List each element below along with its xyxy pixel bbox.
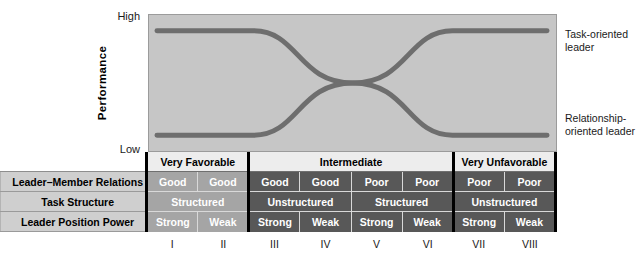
cell-lpp-VIII: Weak [504,212,555,232]
situation-numeral-row: I II III IV V VI VII VIII [1,232,556,254]
table-row-leader-position-power: Leader Position Power Strong Weak Strong… [1,212,556,232]
plot-area [148,14,557,152]
cell-ts-V-VI: Structured [351,192,453,212]
situation-numeral-2: II [198,232,249,254]
row-label-leader-member-relations: Leader–Member Relations [1,172,147,192]
cell-ts-VII-VIII: Unstructured [453,192,555,212]
curve-relationship-oriented-leader [157,31,547,135]
group-header-very-favorable: Very Favorable [147,152,249,172]
performance-chart [148,14,557,152]
cell-lpp-I: Strong [147,212,198,232]
group-header-intermediate: Intermediate [249,152,453,172]
situation-numeral-1: I [147,232,198,254]
cell-lpp-VI: Weak [402,212,453,232]
cell-lmr-IV: Good [300,172,351,192]
cell-lmr-V: Poor [351,172,402,192]
cell-lmr-VII: Poor [453,172,504,192]
group-header-row: Very Favorable Intermediate Very Unfavor… [1,152,556,172]
corner-spacer [1,152,147,172]
situation-numeral-6: VI [402,232,453,254]
situation-numeral-5: V [351,232,402,254]
situation-numeral-8: VIII [504,232,555,254]
cell-lpp-IV: Weak [300,212,351,232]
situation-numeral-3: III [249,232,300,254]
row-label-leader-position-power: Leader Position Power [1,212,147,232]
cell-lpp-III: Strong [249,212,300,232]
row-label-task-structure: Task Structure [1,192,147,212]
cell-lmr-II: Good [198,172,249,192]
table-row-leader-member-relations: Leader–Member Relations Good Good Good G… [1,172,556,192]
table-row-task-structure: Task Structure Structured Unstructured S… [1,192,556,212]
series-label-task-oriented-leader: Task-oriented leader [565,28,641,53]
cell-ts-I-II: Structured [147,192,249,212]
situation-numeral-4: IV [300,232,351,254]
cell-lmr-VI: Poor [402,172,453,192]
cell-lpp-II: Weak [198,212,249,232]
y-axis-tick-high: High [117,10,140,22]
y-axis-title: Performance [97,46,109,121]
matrix-table: Very Favorable Intermediate Very Unfavor… [0,152,557,254]
cell-lpp-VII: Strong [453,212,504,232]
cell-ts-III-IV: Unstructured [249,192,351,212]
situation-numeral-7: VII [453,232,504,254]
cell-lmr-VIII: Poor [504,172,555,192]
cell-lmr-I: Good [147,172,198,192]
series-label-relationship-oriented-leader: Relationship-oriented leader [565,112,641,137]
cell-lpp-V: Strong [351,212,402,232]
cell-lmr-III: Good [249,172,300,192]
y-axis: High Performance Low [0,14,146,152]
situational-favorableness-table: Very Favorable Intermediate Very Unfavor… [0,152,641,267]
numeral-spacer [1,232,147,254]
curves-svg [149,15,556,151]
group-header-very-unfavorable: Very Unfavorable [453,152,555,172]
